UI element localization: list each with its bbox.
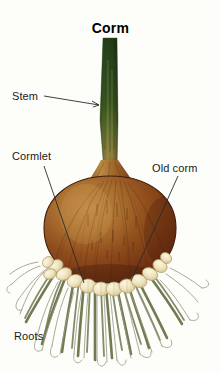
label-roots: Roots	[14, 331, 43, 342]
stem-shape	[100, 38, 118, 172]
label-old-corm: Old corm	[152, 163, 197, 174]
label-stem: Stem	[12, 91, 38, 102]
corm-diagram: Corm	[0, 0, 221, 372]
label-cormlet: Cormlet	[12, 151, 51, 162]
corm-illustration	[0, 0, 221, 372]
leader-stem	[44, 96, 99, 105]
